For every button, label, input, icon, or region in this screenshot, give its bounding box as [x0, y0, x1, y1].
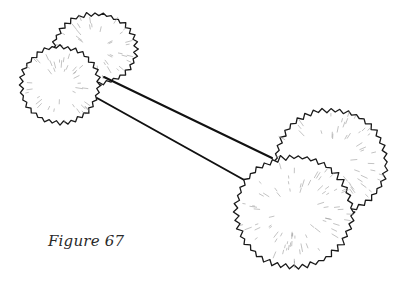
- connecting-rod: [97, 77, 272, 181]
- pompom-front-left: [19, 45, 101, 125]
- figure-caption: Figure 67: [48, 232, 124, 250]
- rod-upper-line: [104, 77, 272, 158]
